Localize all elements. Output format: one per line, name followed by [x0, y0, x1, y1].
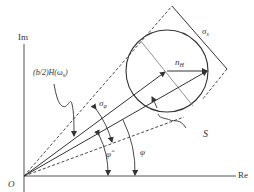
- sigma-s-sub: s: [206, 31, 208, 37]
- complex-plane-diagram: [0, 0, 254, 192]
- n-h-sub: H: [180, 62, 184, 68]
- center-phasor-arrow: [24, 72, 165, 176]
- upper-tangent-dashed: [24, 6, 172, 176]
- s-label: S: [203, 129, 208, 139]
- h-label-leader: [54, 84, 74, 136]
- circle-diameter: [140, 40, 193, 106]
- phi-hat-label: φ̂: [106, 150, 111, 159]
- h-omega-text: (b/2)H(ω: [33, 68, 63, 77]
- sigma-phi-sub: φ: [103, 103, 106, 109]
- im-axis-label: Im: [18, 33, 28, 42]
- sigma-s-label: σs: [202, 27, 209, 37]
- measured-phasor-arrow: [24, 71, 207, 176]
- phi-arc: [123, 120, 135, 175]
- h-omega-close: ): [65, 68, 68, 77]
- n-h-label: nH: [175, 58, 184, 68]
- phi-label: φ: [140, 148, 145, 157]
- re-axis-label: Re: [238, 171, 248, 180]
- sigma-phi-arc: [96, 109, 112, 142]
- h-omega-label: (b/2)H(ωs): [33, 69, 68, 78]
- origin-label: O: [8, 180, 15, 189]
- sigma-phi-label: σφ: [99, 99, 107, 109]
